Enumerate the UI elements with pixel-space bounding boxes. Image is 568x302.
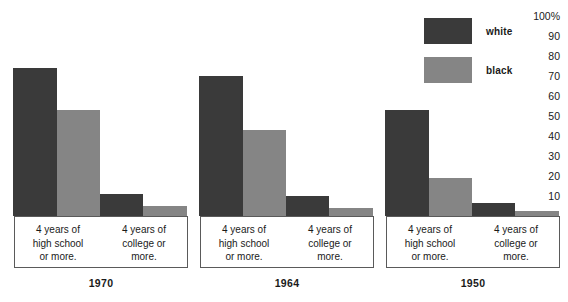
year-label-1970: 1970: [14, 277, 188, 289]
label-line-2: high school: [405, 237, 456, 251]
plot-area: [0, 0, 520, 216]
bar-1970-high-school-white: [13, 68, 57, 216]
label-line-2: college or: [494, 237, 537, 251]
bar-group-1970: [13, 0, 187, 216]
label-line-1: 4 years of: [494, 223, 538, 237]
label-line-2: high school: [219, 237, 270, 251]
bar-1964-high-school-black: [243, 130, 286, 216]
bar-1970-college-white: [100, 194, 143, 216]
label-line-3: or more.: [411, 250, 448, 264]
label-line-1: 4 years of: [222, 223, 266, 237]
label-line-3: or more.: [225, 250, 262, 264]
label-line-3: more.: [317, 250, 343, 264]
bar-chart: white black 100% 90 80 70 60 50 40 30 20…: [0, 0, 568, 302]
bar-group-1950: [385, 0, 559, 216]
label-line-1: 4 years of: [122, 223, 166, 237]
label-line-1: 4 years of: [36, 223, 80, 237]
bar-1950-high-school-white: [385, 110, 429, 216]
category-label-1964-high-school: 4 years of high school or more.: [201, 217, 287, 267]
label-line-2: college or: [308, 237, 351, 251]
bar-group-1950-bars: [385, 0, 559, 216]
bar-1964-college-white: [286, 196, 329, 216]
year-label-1964: 1964: [200, 277, 374, 289]
label-line-1: 4 years of: [308, 223, 352, 237]
category-labels-1970: 4 years of high school or more. 4 years …: [14, 216, 188, 268]
category-label-1964-college: 4 years of college or more.: [287, 217, 373, 267]
bar-1964-college-black: [329, 208, 373, 216]
bar-group-1964: [199, 0, 373, 216]
label-line-2: high school: [33, 237, 84, 251]
label-line-3: more.: [503, 250, 529, 264]
label-line-2: college or: [122, 237, 165, 251]
label-line-3: or more.: [39, 250, 76, 264]
label-line-1: 4 years of: [408, 223, 452, 237]
bar-group-1970-bars: [13, 0, 187, 216]
bar-group-1964-bars: [199, 0, 373, 216]
category-labels-1950: 4 years of high school or more. 4 years …: [386, 216, 560, 268]
category-label-1950-high-school: 4 years of high school or more.: [387, 217, 473, 267]
year-label-1950: 1950: [386, 277, 560, 289]
bar-1970-college-black: [143, 206, 187, 216]
bar-1950-high-school-black: [429, 178, 472, 216]
bar-1970-high-school-black: [57, 110, 100, 216]
category-label-1950-college: 4 years of college or more.: [473, 217, 559, 267]
category-label-1970-college: 4 years of college or more.: [101, 217, 187, 267]
bar-1950-college-white: [472, 203, 515, 216]
category-labels-1964: 4 years of high school or more. 4 years …: [200, 216, 374, 268]
bar-1964-high-school-white: [199, 76, 243, 216]
category-label-1970-high-school: 4 years of high school or more.: [15, 217, 101, 267]
label-line-3: more.: [131, 250, 157, 264]
